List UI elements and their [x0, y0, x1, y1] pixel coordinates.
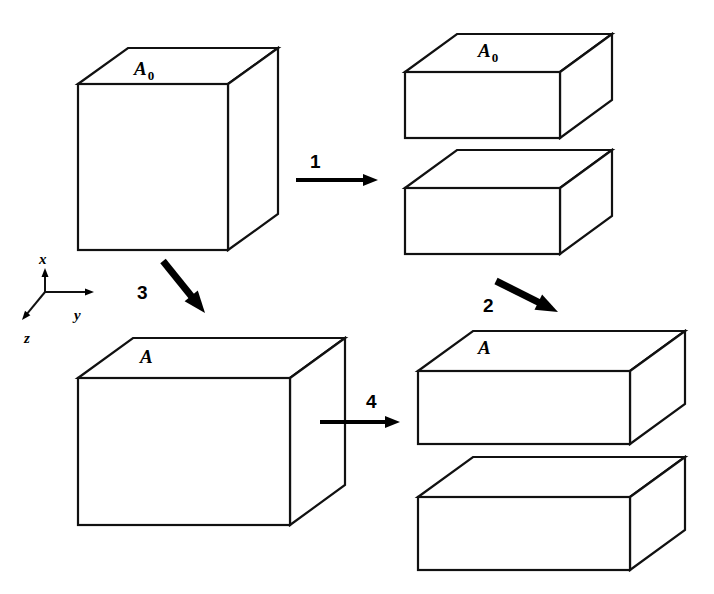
- step-label-4: 4: [366, 391, 377, 412]
- step-label-2: 2: [483, 295, 494, 316]
- arrow-head-icon: [385, 416, 400, 428]
- axis-x-arrow-icon: [42, 268, 49, 292]
- axis-z-arrow-icon: [22, 292, 45, 320]
- slab-deformed-lower-a: [418, 457, 685, 570]
- face-label-slab-a-upper: A: [477, 337, 491, 358]
- slab-deformed-upper-a: A: [418, 331, 685, 444]
- diagram-root: A0A0AA 1234 xyz: [0, 0, 714, 594]
- slab-split-upper-a0: A0: [405, 34, 612, 138]
- slab-split-lower-a0: [405, 150, 612, 254]
- axis-y-arrow-icon: [45, 289, 94, 296]
- coordinate-axes: xyz: [22, 251, 94, 346]
- arrow-head-icon: [535, 295, 559, 312]
- step-label-1: 1: [310, 151, 321, 172]
- arrow-head-icon: [363, 174, 378, 186]
- arrow-step-3: 3: [137, 261, 205, 313]
- diagram-canvas: A0A0AA 1234 xyz: [0, 0, 714, 594]
- cube-initial-a0: A0: [78, 48, 278, 250]
- axis-label-z: z: [23, 330, 30, 346]
- axis-label-x: x: [38, 251, 47, 267]
- arrow-step-2: 2: [483, 281, 558, 316]
- axis-label-y: y: [72, 307, 81, 323]
- box-deformed-a: A: [78, 338, 345, 525]
- shapes-layer: A0A0AA: [78, 34, 685, 570]
- step-label-3: 3: [137, 282, 148, 303]
- face-label-box-a: A: [139, 346, 153, 367]
- arrow-step-1: 1: [296, 151, 378, 186]
